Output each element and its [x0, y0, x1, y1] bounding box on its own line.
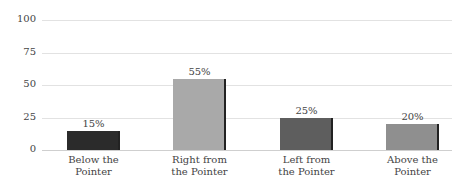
- y-tick-label: 75: [6, 46, 36, 57]
- x-category-label-line: Pointer: [49, 166, 139, 178]
- y-tick-label: 0: [6, 143, 36, 154]
- bar-value-label: 25%: [277, 105, 337, 116]
- x-category-label-line: Pointer: [368, 166, 458, 178]
- bar: [67, 131, 120, 151]
- x-category-label-line: Right from: [155, 154, 245, 166]
- y-tick-label: 25: [6, 111, 36, 122]
- y-tick-label: 50: [6, 78, 36, 89]
- bar: [280, 118, 333, 151]
- x-category-label-line: Below the: [49, 154, 139, 166]
- x-category-label-line: Above the: [368, 154, 458, 166]
- x-category-label-line: Left from: [262, 154, 352, 166]
- bar-value-label: 15%: [64, 118, 124, 129]
- bar: [173, 79, 226, 151]
- gridline: [42, 85, 452, 86]
- bar: [386, 124, 439, 150]
- x-category-label: Right fromthe Pointer: [155, 154, 245, 178]
- gridline: [42, 53, 452, 54]
- bar-value-label: 20%: [383, 111, 443, 122]
- x-category-label: Above thePointer: [368, 154, 458, 178]
- x-category-label-line: the Pointer: [262, 166, 352, 178]
- x-category-label: Below thePointer: [49, 154, 139, 178]
- bar-chart: 0255075100 15%55%25%20% Below thePointer…: [0, 0, 473, 190]
- x-category-label-line: the Pointer: [155, 166, 245, 178]
- y-tick-label: 100: [6, 13, 36, 24]
- x-axis-line: [42, 150, 452, 151]
- bar-value-label: 55%: [170, 66, 230, 77]
- x-category-label: Left fromthe Pointer: [262, 154, 352, 178]
- gridline: [42, 20, 452, 21]
